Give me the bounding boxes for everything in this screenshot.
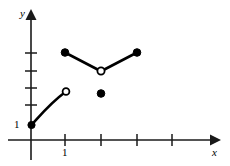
vee-vertex-open <box>97 67 104 74</box>
vee-right-endpoint-filled <box>133 49 141 57</box>
right-ascending-segment <box>102 53 138 72</box>
x-axis-arrow-icon <box>210 135 221 146</box>
vee-left-endpoint-filled <box>61 49 69 57</box>
arc-right-endpoint-open <box>63 88 70 95</box>
x-axis-tick-label-1: 1 <box>62 147 68 158</box>
y-axis-label: y <box>20 8 25 19</box>
left-descending-segment <box>65 53 101 72</box>
y-axis-arrow-icon <box>26 9 37 20</box>
function-graph-figure: y x 1 1 <box>0 0 230 166</box>
origin-point-filled <box>28 121 35 128</box>
arc-branch-curve <box>32 92 67 126</box>
axes-group <box>8 9 221 160</box>
isolated-point-filled <box>97 90 105 98</box>
x-axis-label: x <box>212 147 217 158</box>
y-axis-tick-label-1: 1 <box>14 119 20 130</box>
graph-canvas <box>0 0 230 166</box>
